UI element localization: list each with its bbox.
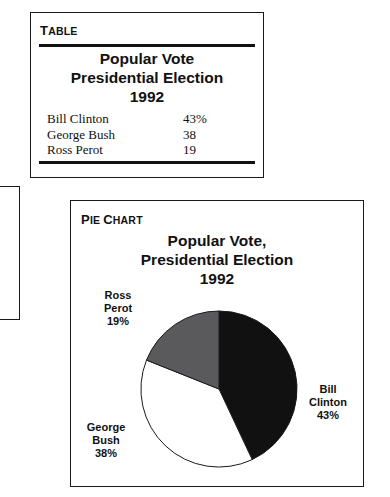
pie-label-bush-line-2: Bush — [75, 434, 137, 447]
pie-label-bush: George Bush 38% — [75, 421, 137, 460]
adjacent-figure-box-clipped — [0, 186, 20, 320]
table-heading-line-2: Presidential Election — [39, 68, 255, 87]
table-top-rule — [39, 44, 255, 47]
pie-label-perot-line-2: Perot — [89, 302, 147, 315]
pie-label-clinton: Bill Clinton 43% — [299, 383, 357, 422]
pie-label-perot-line-1: Ross — [89, 289, 147, 302]
pie-label-clinton-line-2: Clinton — [299, 396, 357, 409]
table-cell-value: 38 — [183, 127, 196, 143]
table-heading-line-1: Popular Vote — [39, 49, 255, 68]
table-cell-candidate: Bill Clinton — [47, 111, 109, 127]
pie-label-bush-value: 38% — [75, 447, 137, 460]
table-row: Bill Clinton 43% — [47, 111, 247, 127]
table-cell-candidate: Ross Perot — [47, 142, 103, 158]
pie-label-clinton-line-1: Bill — [299, 383, 357, 396]
table-rows: Bill Clinton 43% George Bush 38 Ross Per… — [47, 111, 247, 158]
table-cell-candidate: George Bush — [47, 127, 115, 143]
table-cell-value: 19 — [183, 142, 196, 158]
table-cell-value: 43% — [183, 111, 207, 127]
pie-chart-figure-box: PIECHART Popular Vote, Presidential Elec… — [70, 200, 364, 487]
table-row: George Bush 38 — [47, 127, 247, 143]
table-heading: Popular Vote Presidential Election 1992 — [39, 49, 255, 106]
table-heading-line-3: 1992 — [39, 87, 255, 106]
table-kicker-first-letter: T — [40, 23, 48, 38]
table-row: Ross Perot 19 — [47, 142, 247, 158]
table-kicker-label: TABLE — [40, 21, 78, 39]
pie-label-bush-line-1: George — [75, 421, 137, 434]
table-kicker-rest: ABLE — [48, 25, 77, 37]
table-bottom-rule — [39, 161, 255, 164]
pie-label-perot-value: 19% — [89, 315, 147, 328]
table-figure-box: TABLE Popular Vote Presidential Election… — [30, 12, 264, 178]
pie-label-clinton-value: 43% — [299, 409, 357, 422]
pie-label-perot: Ross Perot 19% — [89, 289, 147, 328]
